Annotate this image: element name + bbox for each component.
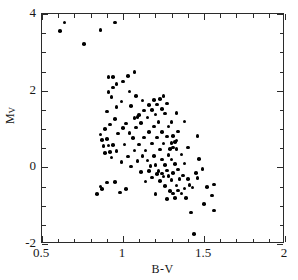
- data-point: [176, 130, 180, 134]
- data-point: [107, 144, 111, 148]
- data-point: [111, 143, 115, 147]
- data-point: [212, 209, 216, 213]
- data-point: [154, 163, 158, 167]
- data-point: [150, 176, 154, 180]
- data-point: [108, 150, 112, 154]
- data-point: [165, 197, 169, 201]
- data-point: [111, 75, 115, 79]
- data-point: [144, 180, 148, 184]
- data-point: [115, 105, 119, 109]
- data-point: [160, 158, 164, 162]
- data-point: [95, 192, 99, 196]
- data-point: [134, 94, 138, 98]
- scatter-data-layer: [42, 14, 283, 242]
- data-point: [154, 192, 158, 196]
- x-axis-tick-label: 2: [281, 246, 288, 260]
- data-point: [146, 159, 150, 163]
- data-point: [176, 168, 180, 172]
- data-point: [110, 95, 114, 99]
- data-point: [108, 123, 112, 127]
- data-point: [149, 164, 153, 168]
- data-point: [105, 181, 109, 185]
- data-point: [175, 184, 179, 188]
- plot-frame: [41, 13, 284, 243]
- data-point: [129, 104, 133, 108]
- data-point: [150, 108, 154, 112]
- data-point: [183, 187, 187, 191]
- data-point: [99, 28, 103, 32]
- data-point: [178, 177, 182, 181]
- data-point: [157, 120, 161, 124]
- y-axis-label-base: M: [3, 113, 17, 124]
- data-point: [152, 98, 156, 102]
- data-point: [170, 120, 174, 124]
- data-point: [196, 176, 200, 180]
- data-point: [160, 107, 164, 111]
- data-point: [175, 111, 179, 115]
- data-point: [133, 149, 137, 153]
- data-point: [175, 147, 179, 151]
- data-point: [126, 155, 130, 159]
- y-axis-tick-label: 2: [30, 83, 37, 97]
- data-point: [165, 135, 169, 139]
- data-point: [160, 130, 164, 134]
- data-point: [158, 148, 162, 152]
- x-axis-major-tick-top: [285, 14, 286, 20]
- data-point: [147, 169, 151, 173]
- data-point: [126, 74, 130, 78]
- data-point: [82, 42, 86, 46]
- data-point: [192, 232, 196, 236]
- data-point: [128, 131, 132, 135]
- data-point: [160, 172, 164, 176]
- data-point: [173, 162, 177, 166]
- data-point: [113, 117, 117, 121]
- data-point: [136, 159, 140, 163]
- color-magnitude-diagram-figure: MV B-V 0.511.52-2024: [0, 0, 298, 280]
- data-point: [152, 125, 156, 129]
- data-point: [175, 139, 179, 143]
- x-axis-major-tick: [285, 236, 286, 242]
- data-point: [141, 154, 145, 158]
- data-point: [191, 186, 195, 190]
- data-point: [210, 194, 214, 198]
- data-point: [100, 138, 104, 142]
- data-point: [152, 154, 156, 158]
- data-point: [186, 177, 190, 181]
- data-point: [150, 142, 154, 146]
- data-point: [141, 99, 145, 103]
- data-point: [142, 109, 146, 113]
- y-axis-tick-label: 0: [30, 159, 37, 173]
- data-point: [105, 110, 109, 114]
- data-point: [142, 136, 146, 140]
- data-point: [205, 185, 209, 189]
- data-point: [158, 97, 162, 101]
- data-point: [162, 142, 166, 146]
- data-point: [134, 126, 138, 130]
- data-point: [173, 196, 177, 200]
- data-point: [212, 183, 216, 187]
- data-point: [183, 120, 187, 124]
- data-point: [144, 149, 148, 153]
- data-point: [99, 133, 103, 137]
- data-point: [162, 175, 166, 179]
- data-point: [113, 21, 117, 25]
- y-axis-label-subscript: V: [7, 107, 17, 114]
- data-point: [128, 90, 132, 94]
- y-axis-label: MV: [3, 94, 18, 138]
- data-point: [123, 143, 127, 147]
- data-point: [120, 100, 124, 104]
- data-point: [167, 174, 171, 178]
- data-point: [147, 103, 151, 107]
- data-point: [181, 174, 185, 178]
- y-axis-tick-label: 4: [30, 6, 37, 20]
- data-point: [167, 125, 171, 129]
- data-point: [202, 202, 206, 206]
- data-point: [171, 134, 175, 138]
- data-point: [171, 171, 175, 175]
- data-point: [107, 75, 111, 79]
- data-point: [58, 29, 62, 33]
- data-point: [121, 80, 125, 84]
- data-point: [137, 113, 141, 117]
- data-point: [168, 189, 172, 193]
- data-point: [183, 162, 187, 166]
